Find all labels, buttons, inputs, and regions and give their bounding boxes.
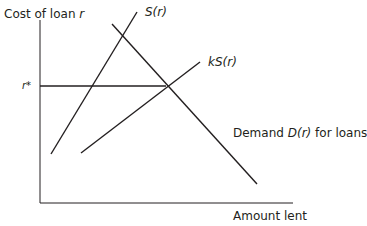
demand-label-suffix: for loans [311,126,367,140]
equilibrium-label: r* [22,81,31,91]
x-axis-label: Amount lent [233,210,307,222]
scaled-supply-label: kS(r) [208,56,237,68]
demand-label-var: D(r) [288,126,312,140]
demand-label-prefix: Demand [233,126,288,140]
y-axis-label-var: r [79,7,84,21]
demand-curve [112,24,257,184]
y-axis-label: Cost of loan r [4,8,84,20]
demand-label: Demand D(r) for loans [233,127,367,139]
y-axis-label-text: Cost of loan [4,7,79,21]
supply-curve [51,12,137,154]
supply-label: S(r) [145,6,167,18]
